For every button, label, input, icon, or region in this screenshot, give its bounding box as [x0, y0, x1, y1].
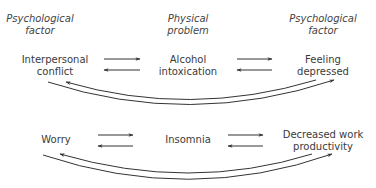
arrows-layer — [0, 0, 376, 188]
curve-arrow-worry-to-productivity — [43, 154, 332, 179]
curve-arrow-conflict-to-depressed — [48, 80, 334, 105]
